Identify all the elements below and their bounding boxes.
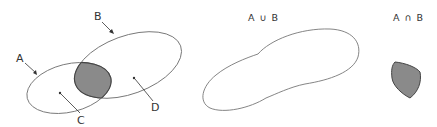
intersection-shaded-region [65,19,190,112]
label-d: D [151,101,159,114]
union-shape [203,29,359,110]
panel-union: A ∪ B [203,12,359,110]
intersection-title: A ∩ B [393,12,424,23]
venn-diagram: A B C D A ∪ B A ∩ B [0,0,437,127]
union-title: A ∪ B [248,12,279,23]
label-a: A [16,52,24,65]
label-c: C [77,114,85,127]
panel-intersection: A ∩ B [392,12,424,98]
pointer-c-icon [61,94,80,113]
label-b: B [94,10,102,23]
pointer-d-icon [135,79,153,101]
arrow-a-icon [25,63,36,73]
panel-sets-a-b: A B C D [16,10,191,127]
intersection-shape [392,62,421,98]
